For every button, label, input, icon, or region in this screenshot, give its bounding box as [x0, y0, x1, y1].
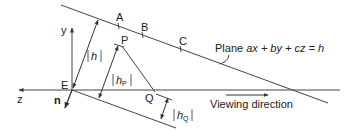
normal-vector — [65, 90, 72, 108]
parallel-line-q — [156, 94, 172, 100]
label-abs-hp: h P — [113, 74, 131, 87]
svg-text:P: P — [122, 80, 127, 87]
svg-text:h: h — [91, 50, 97, 62]
label-y-axis: y — [61, 24, 67, 36]
label-b: B — [141, 21, 148, 33]
label-c: C — [179, 35, 187, 47]
label-e: E — [61, 79, 68, 91]
plane-label-prefix: Plane — [215, 42, 246, 54]
plane-distance-diagram: A B C P Q E y z n h h P h Q Plane ax + b… — [0, 0, 358, 133]
label-p: P — [121, 34, 128, 46]
label-abs-h: h — [88, 50, 101, 62]
label-normal-n: n — [54, 94, 61, 106]
label-q: Q — [145, 92, 154, 104]
tick-a — [118, 23, 119, 29]
segment-pq — [122, 46, 155, 92]
plane-equation: ax + by + cz = h — [246, 42, 324, 54]
viewing-direction-label: Viewing direction — [210, 98, 293, 110]
plane-equation-label: Plane ax + by + cz = h — [215, 42, 324, 54]
hq-distance-arrow — [161, 98, 168, 119]
svg-text:Q: Q — [183, 115, 189, 123]
label-abs-hq: h Q — [174, 109, 192, 123]
label-a: A — [116, 11, 124, 23]
label-z-axis: z — [17, 93, 23, 105]
plane-label-leader — [219, 55, 229, 64]
